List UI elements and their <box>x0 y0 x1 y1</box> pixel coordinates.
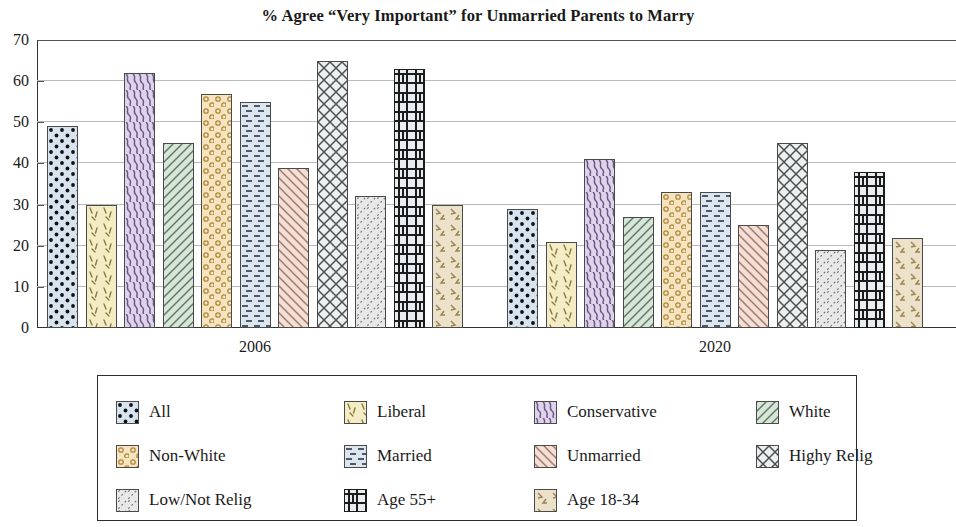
legend-label: White <box>789 402 831 422</box>
bar <box>507 209 538 328</box>
y-axis-tick-mark <box>37 122 44 123</box>
y-axis-tick-label: 10 <box>0 278 29 296</box>
legend-label: All <box>149 402 171 422</box>
legend-label: Highy Relig <box>789 446 873 466</box>
legend-item[interactable]: Age 18-34 <box>534 489 756 512</box>
bar <box>240 102 271 328</box>
bar <box>394 69 425 328</box>
legend-label: Age 18-34 <box>567 490 639 510</box>
x-axis-tick-label: 2006 <box>239 338 271 356</box>
legend-swatch-icon <box>756 401 779 424</box>
bar <box>47 126 78 328</box>
legend-label: Non-White <box>149 446 225 466</box>
legend-item[interactable]: Low/Not Relig <box>116 489 344 512</box>
y-axis-tick-label: 30 <box>0 196 29 214</box>
legend: AllLiberalConservativeWhiteNon-WhiteMarr… <box>97 375 857 521</box>
y-axis-tick-mark <box>37 205 44 206</box>
legend-swatch-icon <box>344 489 367 512</box>
y-axis-tick-mark <box>37 163 44 164</box>
bar <box>700 192 731 328</box>
bars-layer <box>37 40 956 328</box>
bar <box>738 225 769 328</box>
legend-label: Conservative <box>567 402 657 422</box>
bar <box>355 196 386 328</box>
chart-container: % Agree “Very Important” for Unmarried P… <box>0 0 956 527</box>
legend-label: Liberal <box>377 402 426 422</box>
bar <box>815 250 846 328</box>
plot-area <box>37 40 956 328</box>
legend-label: Low/Not Relig <box>149 490 251 510</box>
legend-swatch-icon <box>116 489 139 512</box>
legend-swatch-icon <box>534 489 557 512</box>
y-axis-tick-label: 70 <box>0 31 29 49</box>
legend-swatch-icon <box>756 445 779 468</box>
legend-swatch-icon <box>116 445 139 468</box>
legend-item[interactable]: Liberal <box>344 401 534 424</box>
bar <box>892 238 923 329</box>
legend-swatch-icon <box>344 445 367 468</box>
y-axis-tick-mark <box>37 81 44 82</box>
bar <box>854 172 885 328</box>
legend-item[interactable]: White <box>756 401 873 424</box>
y-axis-tick-label: 60 <box>0 72 29 90</box>
bar <box>432 205 463 328</box>
y-axis-tick-label: 0 <box>0 319 29 337</box>
x-axis-tick-label: 2020 <box>699 338 731 356</box>
chart-title: % Agree “Very Important” for Unmarried P… <box>0 6 956 26</box>
legend-label: Age 55+ <box>377 490 436 510</box>
legend-item[interactable]: All <box>116 401 344 424</box>
y-axis-tick-mark <box>37 287 44 288</box>
y-axis-tick-label: 50 <box>0 113 29 131</box>
bar <box>124 73 155 328</box>
y-axis-tick-mark <box>37 246 44 247</box>
legend-swatch-icon <box>116 401 139 424</box>
legend-swatch-icon <box>534 445 557 468</box>
legend-item[interactable]: Unmarried <box>534 445 756 468</box>
bar <box>661 192 692 328</box>
bar <box>278 168 309 328</box>
y-axis-tick-label: 20 <box>0 237 29 255</box>
legend-item[interactable]: Non-White <box>116 445 344 468</box>
legend-item[interactable]: Married <box>344 445 534 468</box>
legend-item[interactable]: Conservative <box>534 401 756 424</box>
legend-label: Unmarried <box>567 446 641 466</box>
legend-swatch-icon <box>344 401 367 424</box>
bar <box>201 94 232 329</box>
legend-grid: AllLiberalConservativeWhiteNon-WhiteMarr… <box>98 376 856 520</box>
bar <box>546 242 577 328</box>
bar <box>163 143 194 328</box>
bar <box>317 61 348 328</box>
legend-swatch-icon <box>534 401 557 424</box>
legend-label: Married <box>377 446 432 466</box>
bar <box>777 143 808 328</box>
legend-item[interactable]: Highy Relig <box>756 445 873 468</box>
bar <box>86 205 117 328</box>
y-axis-tick-label: 40 <box>0 154 29 172</box>
legend-item[interactable]: Age 55+ <box>344 489 534 512</box>
bar <box>623 217 654 328</box>
bar <box>584 159 615 328</box>
